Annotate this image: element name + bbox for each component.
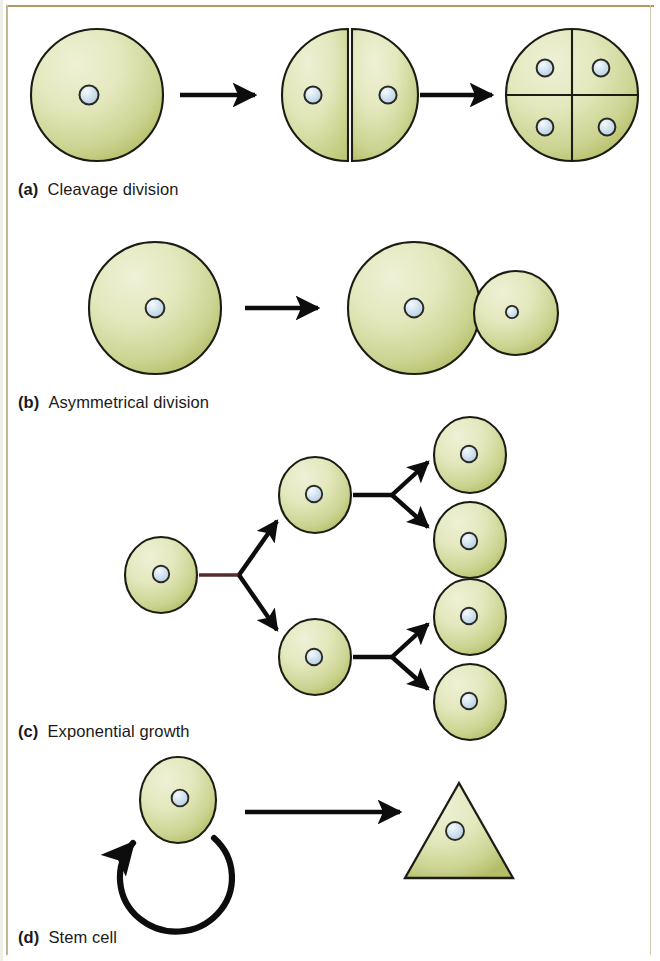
arrow-gen2-upper-to-gen3-b bbox=[392, 495, 428, 527]
arrow-gen2-lower-to-gen3-c bbox=[392, 624, 428, 657]
stage-one-cell-zygote bbox=[31, 29, 163, 161]
generation-4-cell-c bbox=[434, 579, 506, 655]
caption-panel-a: (a)Cleavage division bbox=[18, 180, 179, 199]
arrow-gen2-upper-to-gen3-a bbox=[392, 462, 428, 495]
caption-letter-a: (a) bbox=[18, 180, 38, 198]
arrow-gen1-to-gen2-lower bbox=[239, 575, 277, 630]
nucleus bbox=[537, 60, 554, 77]
generation-4-cell-d bbox=[434, 664, 506, 740]
nucleus bbox=[405, 299, 424, 318]
nucleus bbox=[306, 649, 322, 665]
nucleus bbox=[153, 566, 169, 582]
generation-2-cell-upper bbox=[279, 457, 351, 533]
panel-cleavage-division bbox=[31, 29, 638, 161]
caption-panel-d: (d)Stem cell bbox=[18, 928, 117, 947]
caption-letter-b: (b) bbox=[18, 393, 39, 411]
stage-two-cell bbox=[282, 29, 418, 161]
cell-division-figure: (a)Cleavage division (b)Asymmetrical div… bbox=[0, 0, 660, 961]
nucleus bbox=[146, 299, 165, 318]
self-renewal-loop-arrow bbox=[120, 838, 232, 932]
nucleus bbox=[461, 446, 477, 462]
panel-exponential-growth bbox=[125, 417, 506, 740]
generation-2-cell-lower bbox=[279, 619, 351, 695]
nucleus bbox=[461, 533, 477, 549]
nucleus bbox=[446, 822, 464, 840]
stage-small-daughter-cell bbox=[474, 271, 558, 355]
stage-large-daughter-cell bbox=[348, 242, 480, 374]
arrow-gen1-to-gen2-upper bbox=[239, 521, 277, 575]
diagram-canvas bbox=[0, 0, 660, 961]
nucleus bbox=[379, 86, 396, 103]
nucleus bbox=[80, 86, 99, 105]
caption-label-b: Asymmetrical division bbox=[48, 393, 209, 411]
nucleus bbox=[506, 306, 518, 318]
generation-4-cell-a bbox=[434, 417, 506, 493]
stage-parent-cell bbox=[89, 242, 221, 374]
arrow-gen2-lower-to-gen3-d bbox=[392, 657, 428, 689]
caption-label-d: Stem cell bbox=[48, 928, 117, 946]
stem-cell-body bbox=[140, 757, 216, 843]
generation-1-cell bbox=[125, 537, 197, 613]
differentiated-cell bbox=[405, 783, 513, 878]
caption-label-c: Exponential growth bbox=[47, 722, 189, 740]
caption-label-a: Cleavage division bbox=[47, 180, 178, 198]
caption-letter-c: (c) bbox=[18, 722, 38, 740]
nucleus bbox=[306, 486, 322, 502]
nucleus bbox=[593, 60, 610, 77]
nucleus bbox=[304, 86, 321, 103]
caption-letter-d: (d) bbox=[18, 928, 39, 946]
panel-asymmetrical-division bbox=[89, 242, 558, 374]
nucleus bbox=[537, 119, 554, 136]
caption-panel-b: (b)Asymmetrical division bbox=[18, 393, 209, 412]
nucleus bbox=[172, 790, 189, 807]
generation-4-cell-b bbox=[434, 502, 506, 578]
stage-four-cell bbox=[506, 29, 638, 161]
nucleus bbox=[461, 608, 477, 624]
nucleus bbox=[461, 693, 477, 709]
caption-panel-c: (c)Exponential growth bbox=[18, 722, 190, 741]
panel-stem-cell bbox=[120, 757, 513, 932]
nucleus bbox=[599, 119, 616, 136]
